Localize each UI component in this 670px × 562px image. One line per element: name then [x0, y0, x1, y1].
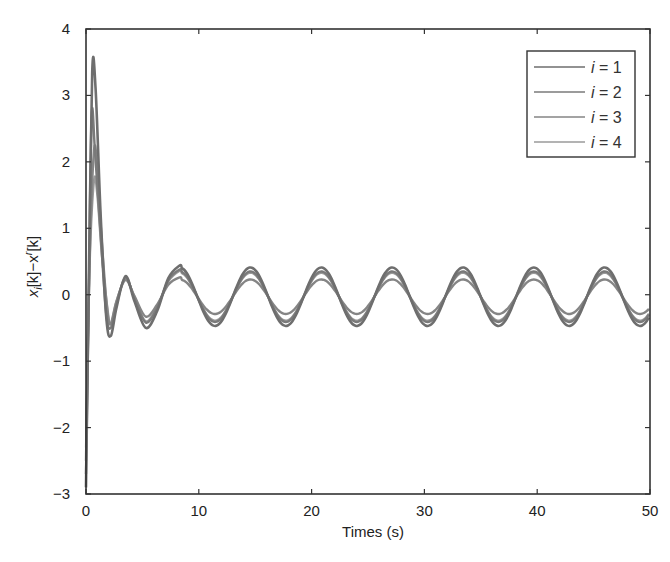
y-tick-label: 0	[62, 286, 70, 303]
y-tick-label: 2	[62, 153, 70, 170]
line-chart: 01020304050 −3−2−101234 Times (s) xi[k]−…	[0, 0, 670, 562]
y-axis-title: xi[k]−xr[k]	[22, 236, 44, 299]
legend-label: i = 1	[591, 59, 622, 76]
x-tick-label: 0	[82, 502, 90, 519]
x-tick-labels: 01020304050	[82, 502, 659, 519]
x-tick-label: 20	[303, 502, 320, 519]
y-tick-label: −3	[53, 485, 70, 502]
x-tick-label: 40	[529, 502, 546, 519]
y-tick-label: −1	[53, 352, 70, 369]
y-tick-label: 1	[62, 219, 70, 236]
y-tick-label: −2	[53, 419, 70, 436]
x-tick-label: 50	[642, 502, 659, 519]
y-axis-title-mid: [k]−x	[24, 255, 41, 288]
y-tick-label: 3	[62, 86, 70, 103]
legend-label: i = 3	[591, 109, 622, 126]
series-line-i3	[86, 145, 649, 460]
series-line-i2	[86, 108, 649, 474]
x-tick-label: 30	[416, 502, 433, 519]
y-axis-title-end: [k]	[24, 236, 41, 252]
x-axis-title: Times (s)	[342, 523, 404, 540]
legend-label: i = 2	[591, 84, 622, 101]
y-tick-label: 4	[62, 20, 70, 37]
legend: i = 1i = 2i = 3i = 4	[527, 51, 635, 157]
legend-label: i = 4	[591, 134, 622, 151]
x-tick-label: 10	[190, 502, 207, 519]
y-tick-labels: −3−2−101234	[53, 20, 70, 502]
